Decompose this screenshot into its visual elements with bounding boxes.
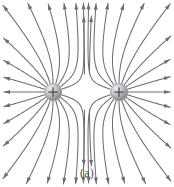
field-arrowhead: [48, 4, 52, 11]
field-arrowhead: [140, 3, 145, 9]
field-arrowhead: [4, 103, 11, 107]
field-arrowhead: [82, 3, 86, 9]
field-arrowhead: [120, 4, 124, 11]
field-line: [112, 4, 123, 83]
field-line: [128, 77, 170, 89]
field-line: [48, 4, 59, 83]
field-arrowhead: [164, 104, 171, 108]
figure-caption: (a): [0, 167, 174, 179]
field-arrowhead: [63, 3, 67, 9]
field-arrowhead: [164, 120, 170, 125]
field-arrowhead: [164, 76, 171, 80]
field-arrowhead: [164, 59, 170, 64]
field-line-center: [90, 110, 92, 166]
field-arrowhead: [82, 16, 86, 22]
field-arrowhead: [4, 119, 10, 124]
figure-root: (a): [0, 0, 174, 187]
field-arrowhead: [89, 16, 93, 22]
field-line: [4, 77, 44, 89]
field-arrowhead: [28, 3, 33, 9]
field-arrowhead: [4, 90, 10, 94]
field-line: [58, 3, 69, 84]
field-lines-layer: [3, 3, 171, 184]
field-arrowhead: [4, 77, 11, 81]
point-charge: [111, 84, 129, 102]
field-arrowhead: [4, 60, 10, 65]
field-line: [62, 3, 84, 89]
field-arrowhead: [105, 3, 109, 9]
field-line: [119, 3, 144, 82]
electric-field-diagram: [0, 0, 174, 187]
field-line-center: [90, 16, 92, 74]
field-arrowheads-layer: [3, 3, 171, 184]
field-line: [4, 95, 44, 107]
field-line: [128, 95, 170, 107]
field-line: [28, 3, 53, 82]
field-arrowhead: [164, 90, 170, 94]
field-arrowhead: [86, 3, 90, 9]
point-charge: [45, 84, 63, 102]
point-charges-layer: [45, 84, 129, 102]
field-line: [103, 3, 114, 84]
